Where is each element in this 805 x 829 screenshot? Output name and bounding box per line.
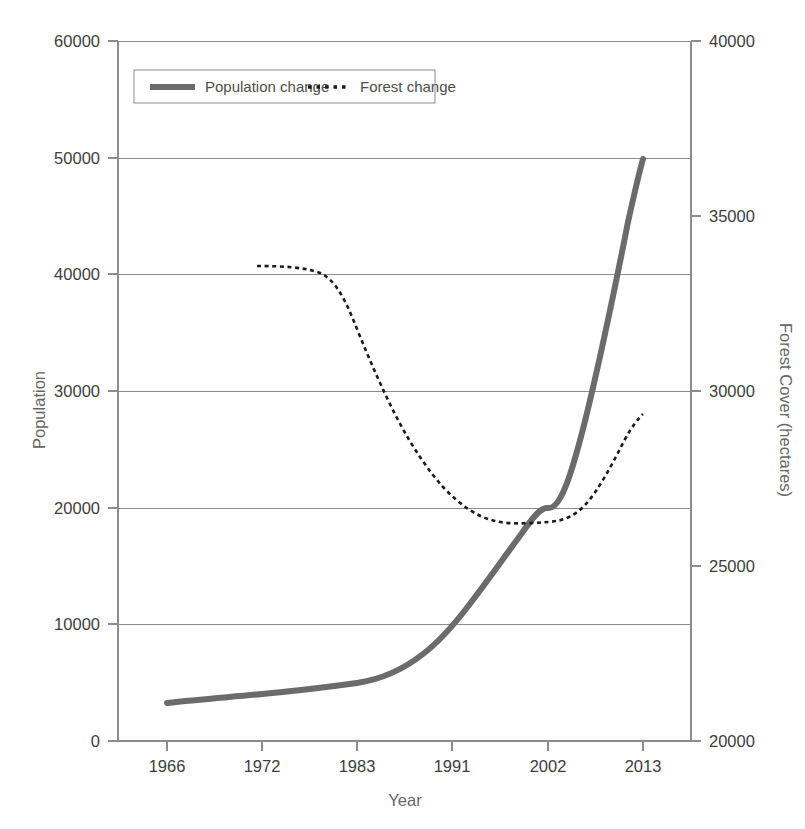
series-line-forest-change xyxy=(257,266,643,523)
y-right-tick-label: 25000 xyxy=(709,557,755,575)
legend-label: Forest change xyxy=(360,78,456,95)
y-left-tick-label: 10000 xyxy=(54,615,100,633)
y-left-tick-label: 60000 xyxy=(54,32,100,50)
y-right-tick-label: 35000 xyxy=(709,207,755,225)
y-axis-right-ticks xyxy=(691,41,701,741)
y-left-tick-label: 50000 xyxy=(54,149,100,167)
y-axis-right-tick-labels: 40000 35000 30000 25000 20000 xyxy=(709,32,755,750)
x-axis-ticks xyxy=(167,741,643,751)
y-right-tick-label: 20000 xyxy=(709,732,755,750)
y-axis-left-ticks xyxy=(108,41,118,741)
y-left-tick-label: 0 xyxy=(91,732,100,750)
y-axis-right-title: Forest Cover (hectares) xyxy=(777,323,795,497)
line-chart: 60000 50000 40000 30000 20000 10000 0 40… xyxy=(0,0,805,829)
y-right-tick-label: 30000 xyxy=(709,382,755,400)
x-tick-label: 2002 xyxy=(530,757,567,775)
y-right-tick-label: 40000 xyxy=(709,32,755,50)
y-left-tick-label: 20000 xyxy=(54,499,100,517)
y-axis-left-title: Population xyxy=(30,371,48,449)
chart-container: 60000 50000 40000 30000 20000 10000 0 40… xyxy=(0,0,805,829)
x-axis-tick-labels: 1966 1972 1983 1991 2002 2013 xyxy=(149,757,662,775)
y-left-tick-label: 30000 xyxy=(54,382,100,400)
legend: Population change Forest change xyxy=(134,70,456,103)
x-tick-label: 1983 xyxy=(339,757,376,775)
x-tick-label: 1972 xyxy=(244,757,281,775)
x-axis-title: Year xyxy=(388,791,422,809)
y-left-tick-label: 40000 xyxy=(54,265,100,283)
x-tick-label: 2013 xyxy=(625,757,662,775)
x-tick-label: 1966 xyxy=(149,757,186,775)
x-tick-label: 1991 xyxy=(434,757,471,775)
y-axis-left-tick-labels: 60000 50000 40000 30000 20000 10000 0 xyxy=(54,32,100,750)
